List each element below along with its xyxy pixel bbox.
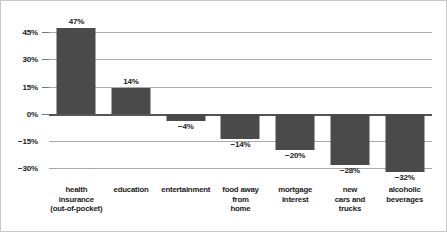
bar-group[interactable]: 14% [104, 23, 159, 181]
bar-group[interactable]: −32% [377, 23, 432, 181]
category-label-line: beverages [377, 195, 432, 205]
bar-value-label: −14% [231, 140, 251, 149]
category-label: education [104, 185, 159, 195]
y-axis-tick-mark [42, 114, 49, 115]
category-label-line: food away [213, 185, 268, 195]
bar-group[interactable]: −20% [268, 23, 323, 181]
y-axis-tick-label: 0% [27, 109, 38, 118]
bar-group[interactable]: 47% [49, 23, 104, 181]
category-label: alcoholicbeverages [377, 185, 432, 204]
bar-chart: 45%30%15%0%−15%−30% 47%14%−4%−14%−20%−28… [0, 0, 447, 232]
plot-area: 45%30%15%0%−15%−30% 47%14%−4%−14%−20%−28… [49, 23, 432, 181]
category-label-line: mortgage [268, 185, 323, 195]
bar[interactable] [166, 114, 205, 121]
category-label-line: (out-of-pocket) [49, 204, 104, 214]
category-label-line: home [213, 204, 268, 214]
category-label-line: insurance [49, 195, 104, 205]
bar-value-label: −20% [285, 151, 305, 160]
y-axis-tick-label: −15% [18, 137, 38, 146]
category-label-line: from [213, 195, 268, 205]
category-label: food awayfromhome [213, 185, 268, 214]
bar[interactable] [385, 114, 424, 172]
y-axis-tick-mark [42, 87, 49, 88]
bar[interactable] [330, 114, 369, 165]
bar[interactable] [112, 88, 151, 113]
bar-group[interactable]: −14% [213, 23, 268, 181]
category-label: healthinsurance(out-of-pocket) [49, 185, 104, 214]
bar-value-label: −28% [340, 166, 360, 175]
y-axis-tick-label: −30% [18, 164, 38, 173]
bar-value-label: −32% [395, 173, 415, 182]
bar[interactable] [276, 114, 315, 150]
category-label-line: new [323, 185, 378, 195]
y-axis-tick-label: 30% [23, 55, 38, 64]
category-label: entertainment [158, 185, 213, 195]
category-label-line: cars and [323, 195, 378, 205]
category-label-line: health [49, 185, 104, 195]
bar-value-label: −4% [178, 122, 194, 131]
bar[interactable] [221, 114, 260, 139]
category-label-line: education [104, 185, 159, 195]
bars-layer: 47%14%−4%−14%−20%−28%−32% [49, 23, 432, 181]
category-label-line: entertainment [158, 185, 213, 195]
category-labels: healthinsurance(out-of-pocket)educatione… [49, 185, 432, 231]
y-axis-tick-mark [42, 59, 49, 60]
category-label: mortgageinterest [268, 185, 323, 204]
bar[interactable] [57, 28, 96, 113]
category-label: newcars andtrucks [323, 185, 378, 214]
category-label-line: interest [268, 195, 323, 205]
bar-group[interactable]: −28% [323, 23, 378, 181]
y-axis-tick-label: 45% [23, 28, 38, 37]
y-axis-tick-label: 15% [23, 82, 38, 91]
bar-group[interactable]: −4% [158, 23, 213, 181]
bar-value-label: 14% [123, 77, 138, 86]
bar-value-label: 47% [69, 17, 84, 26]
category-label-line: alcoholic [377, 185, 432, 195]
category-label-line: trucks [323, 204, 378, 214]
y-axis-tick-mark [42, 32, 49, 33]
